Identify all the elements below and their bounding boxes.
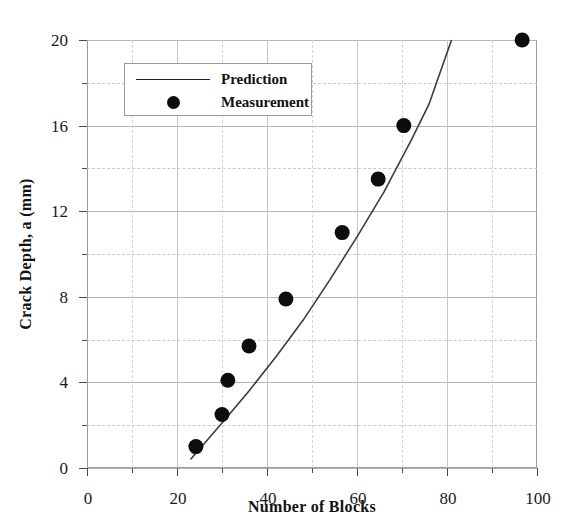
chart-figure: Crack Depth, a (mm) 04812162002040608010… [0, 0, 572, 529]
measurement-point [242, 339, 257, 354]
x-tick-mark: 20 [177, 468, 178, 476]
measurement-point [335, 225, 350, 240]
y-tick-label: 8 [60, 288, 69, 308]
x-tick-mark-minor [312, 468, 313, 473]
circle-icon [167, 96, 180, 109]
y-tick-label: 20 [51, 31, 68, 51]
measurement-point [220, 373, 235, 388]
y-tick-label: 16 [51, 117, 68, 137]
measurement-point [215, 407, 230, 422]
x-tick-mark: 100 [537, 468, 538, 476]
y-tick-mark: 20 [79, 40, 87, 41]
legend-dot-swatch [125, 96, 221, 109]
measurement-point [515, 33, 530, 48]
y-tick-label: 12 [51, 202, 68, 222]
measurement-point [396, 118, 411, 133]
legend-line-swatch [125, 79, 221, 80]
y-tick-label: 0 [60, 459, 69, 479]
legend-label: Prediction [221, 71, 287, 88]
y-tick-mark: 4 [79, 382, 87, 383]
x-tick-mark-minor [492, 468, 493, 473]
x-tick-mark-minor [222, 468, 223, 473]
y-tick-label: 4 [60, 373, 69, 393]
x-tick-mark-minor [132, 468, 133, 473]
measurement-point [278, 291, 293, 306]
line-icon [136, 79, 210, 80]
measurement-point [188, 439, 203, 454]
legend-label: Measurement [221, 94, 309, 111]
y-axis-title: Crack Depth, a (mm) [13, 40, 39, 468]
chart-legend: PredictionMeasurement [124, 63, 312, 116]
y-tick-mark: 8 [79, 297, 87, 298]
legend-item: Measurement [125, 89, 311, 115]
y-tick-mark: 0 [79, 468, 87, 469]
y-tick-mark: 16 [79, 126, 87, 127]
y-tick-mark: 12 [79, 211, 87, 212]
x-tick-mark: 60 [357, 468, 358, 476]
x-tick-mark: 0 [87, 468, 88, 476]
x-tick-mark: 80 [447, 468, 448, 476]
x-tick-mark-minor [402, 468, 403, 473]
x-axis-title: Number of Blocks [87, 498, 537, 516]
x-tick-mark: 40 [267, 468, 268, 476]
measurement-point [371, 172, 386, 187]
